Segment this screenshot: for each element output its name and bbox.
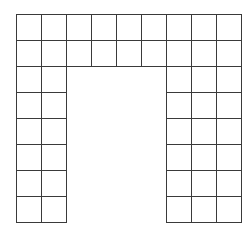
left-leg-cell xyxy=(41,170,67,197)
right-leg-cell xyxy=(191,118,217,145)
left-leg-cell xyxy=(16,66,42,93)
right-leg-cell xyxy=(166,144,192,171)
top-band-cell xyxy=(116,14,142,41)
left-leg-cell xyxy=(41,66,67,93)
top-band-cell xyxy=(141,14,167,41)
top-band-cell xyxy=(116,40,142,67)
right-leg-cell xyxy=(216,66,242,93)
top-band-cell xyxy=(91,14,117,41)
right-leg-cell xyxy=(191,92,217,119)
right-leg-cell xyxy=(216,196,242,223)
left-leg-cell xyxy=(41,196,67,223)
top-band-cell xyxy=(216,40,242,67)
right-leg-cell xyxy=(166,196,192,223)
top-band-cell xyxy=(191,14,217,41)
top-band-cell xyxy=(66,14,92,41)
top-band-cell xyxy=(166,40,192,67)
right-leg-cell xyxy=(191,196,217,223)
left-leg-cell xyxy=(16,196,42,223)
left-leg-cell xyxy=(41,118,67,145)
right-leg-cell xyxy=(191,144,217,171)
right-leg-cell xyxy=(166,118,192,145)
top-band-cell xyxy=(91,40,117,67)
top-band-cell xyxy=(166,14,192,41)
top-band-cell xyxy=(16,14,42,41)
left-leg-cell xyxy=(16,118,42,145)
right-leg-cell xyxy=(216,170,242,197)
top-band-cell xyxy=(141,40,167,67)
left-leg-cell xyxy=(16,144,42,171)
left-leg-cell xyxy=(16,170,42,197)
top-band-cell xyxy=(16,40,42,67)
top-band-cell xyxy=(66,40,92,67)
right-leg-cell xyxy=(166,92,192,119)
right-leg-cell xyxy=(191,66,217,93)
top-band-cell xyxy=(191,40,217,67)
left-leg-cell xyxy=(41,92,67,119)
top-band-cell xyxy=(41,40,67,67)
grid-diagram xyxy=(0,0,251,232)
top-band-cell xyxy=(216,14,242,41)
left-leg-cell xyxy=(16,92,42,119)
right-leg-cell xyxy=(191,170,217,197)
left-leg-cell xyxy=(41,144,67,171)
right-leg-cell xyxy=(166,66,192,93)
right-leg-cell xyxy=(216,118,242,145)
right-leg-cell xyxy=(166,170,192,197)
top-band-cell xyxy=(41,14,67,41)
right-leg-cell xyxy=(216,144,242,171)
right-leg-cell xyxy=(216,92,242,119)
